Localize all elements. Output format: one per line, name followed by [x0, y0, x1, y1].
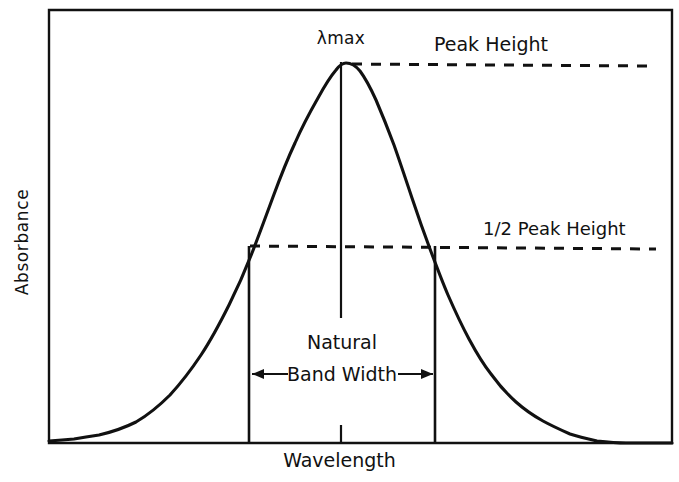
half-peak-height-reference-line	[250, 246, 656, 249]
figure-root: Absorbance Wavelength λmax Peak Height 1…	[0, 0, 679, 482]
peak-height-reference-line	[352, 64, 652, 66]
peak-height-label: Peak Height	[434, 33, 548, 55]
natural-band-width-label-line2: Band Width	[252, 363, 432, 385]
natural-band-width-label-line1: Natural	[252, 331, 432, 353]
half-peak-height-label: 1/2 Peak Height	[483, 218, 626, 239]
absorption-band-curve	[49, 63, 672, 443]
lambda-max-label: λmax	[271, 28, 411, 48]
x-axis-label: Wavelength	[0, 449, 679, 471]
y-axis-label: Absorbance	[12, 157, 32, 327]
spectrum-chart-canvas	[0, 0, 679, 482]
